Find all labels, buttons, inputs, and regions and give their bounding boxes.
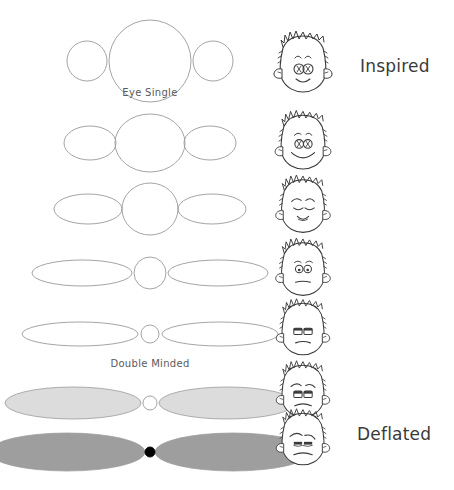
center-ellipse-2 — [115, 114, 185, 172]
face-3-calm-closed-eyes — [276, 175, 331, 232]
side-ellipse-left-5 — [22, 322, 138, 346]
face-ear-right — [322, 333, 329, 342]
face-lid-left — [294, 391, 302, 394]
face-eye-left — [294, 442, 302, 445]
side-ellipse-left-1 — [67, 41, 107, 81]
caption-double-minded: Double Minded — [0, 358, 300, 369]
face-pupil-left — [298, 269, 301, 272]
ellipse-row-4 — [32, 257, 268, 289]
face-ear-left — [276, 395, 283, 404]
face-ear-right — [322, 443, 329, 452]
face-head-outline — [282, 180, 325, 233]
face-lid-right — [304, 391, 312, 394]
face-2-content-smile — [275, 110, 331, 169]
face-ear-left — [276, 274, 284, 283]
face-head-outline — [282, 413, 324, 465]
ellipse-row-3 — [54, 183, 246, 235]
face-ear-left — [276, 333, 283, 342]
face-ear-right — [323, 274, 331, 283]
face-5-flat-tired — [276, 299, 329, 355]
face-1-inspired-wide-eyes — [274, 31, 332, 92]
face-ear-right — [324, 69, 332, 78]
center-ellipse-6 — [143, 396, 157, 410]
side-ellipse-right-6 — [159, 387, 295, 419]
face-ear-left — [276, 211, 284, 220]
face-ear-left — [275, 147, 283, 156]
side-ellipse-left-2 — [64, 126, 116, 160]
center-ellipse-4 — [134, 257, 166, 289]
ellipse-row-2 — [64, 114, 236, 172]
face-ear-left — [274, 69, 282, 78]
side-ellipse-left-4 — [32, 260, 132, 286]
face-head-outline — [282, 365, 324, 417]
state-label-inspired: Inspired — [360, 56, 430, 76]
center-ellipse-7 — [145, 447, 155, 457]
center-ellipse-5 — [141, 325, 159, 343]
side-ellipse-left-3 — [54, 194, 122, 224]
face-lid-left — [294, 328, 302, 330]
face-eye-right — [304, 442, 312, 445]
side-ellipse-right-4 — [168, 260, 268, 286]
figure-canvas: Eye Single Double Minded Inspired Deflat… — [0, 0, 454, 490]
face-ear-left — [276, 443, 283, 452]
face-head-outline — [282, 303, 324, 355]
side-ellipse-right-2 — [184, 126, 236, 160]
face-ear-right — [322, 395, 329, 404]
side-ellipse-left-7 — [0, 433, 145, 471]
ellipse-row-5 — [22, 322, 278, 346]
face-ear-right — [323, 147, 331, 156]
center-ellipse-3 — [122, 183, 178, 235]
side-ellipse-right-1 — [193, 41, 233, 81]
side-ellipse-left-6 — [5, 387, 141, 419]
side-ellipse-right-3 — [178, 194, 246, 224]
side-ellipse-right-5 — [162, 322, 278, 346]
face-ear-right — [323, 211, 331, 220]
ellipse-row-7 — [0, 433, 311, 471]
face-pupil-right — [306, 269, 309, 272]
face-lid-right — [304, 328, 312, 330]
caption-eye-single: Eye Single — [0, 87, 300, 98]
state-label-deflated: Deflated — [357, 424, 431, 444]
ellipse-row-6 — [5, 387, 295, 419]
face-4-worried-frown — [276, 238, 331, 295]
face-head-outline — [280, 36, 326, 92]
